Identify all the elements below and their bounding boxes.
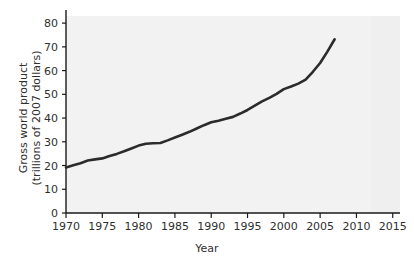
x-tick-label: 1975 [88, 220, 116, 233]
y-tick-label: 30 [44, 136, 58, 149]
x-tick-label: 2010 [342, 220, 370, 233]
plot-area-background [66, 16, 400, 213]
x-axis-title: Year [194, 242, 219, 255]
x-tick-label: 1970 [52, 220, 80, 233]
y-tick-label: 40 [44, 112, 58, 125]
y-tick-label: 60 [44, 65, 58, 78]
y-tick-label: 80 [44, 17, 58, 30]
x-tick-label: 2005 [306, 220, 334, 233]
gross-world-product-line-chart: 01020304050607080 1970197519801985199019… [0, 0, 414, 266]
x-tick-label: 1985 [161, 220, 189, 233]
x-tick-label: 1980 [125, 220, 153, 233]
x-tick-label: 1990 [197, 220, 225, 233]
y-axis-tick-labels: 01020304050607080 [44, 17, 58, 220]
x-tick-label: 2015 [379, 220, 407, 233]
plot-background-seam [371, 16, 400, 213]
y-tick-label: 20 [44, 160, 58, 173]
y-tick-label: 10 [44, 183, 58, 196]
y-axis-title-line-1: Gross world product [17, 62, 30, 173]
x-tick-label: 1995 [234, 220, 262, 233]
y-axis-title-line-2: (trillions of 2007 dollars) [30, 51, 43, 186]
y-tick-label: 50 [44, 88, 58, 101]
y-tick-label: 0 [51, 207, 58, 220]
x-tick-label: 2000 [270, 220, 298, 233]
chart-figure: 01020304050607080 1970197519801985199019… [0, 0, 414, 266]
y-tick-label: 70 [44, 41, 58, 54]
